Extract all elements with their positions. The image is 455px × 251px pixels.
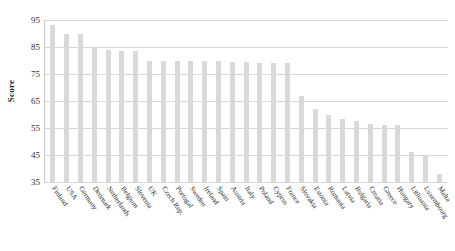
bar (64, 34, 69, 183)
x-label-slot: Slovakia (294, 183, 308, 251)
bar-slot (212, 20, 226, 182)
bar (216, 61, 221, 183)
bar (257, 63, 262, 182)
x-label-slot: Slovenia (129, 183, 143, 251)
bar-slot (87, 20, 101, 182)
x-label-slot: Ireland (198, 183, 212, 251)
bar (437, 174, 442, 182)
bar-slot (432, 20, 446, 182)
bar (106, 50, 111, 182)
bar-slot (253, 20, 267, 182)
bar-slot (198, 20, 212, 182)
y-tick-label: 75 (31, 69, 40, 79)
bar-slot (74, 20, 88, 182)
x-tick-label: Malta (436, 185, 452, 203)
bar-slot (308, 20, 322, 182)
x-label-slot: Cyprus (267, 183, 281, 251)
bar (188, 61, 193, 183)
x-label-slot: Bulgaria (350, 183, 364, 251)
x-label-slot: Belgium (115, 183, 129, 251)
x-label-slot: Romania (322, 183, 336, 251)
bar-slot (377, 20, 391, 182)
bar-slot (225, 20, 239, 182)
bar-slot (143, 20, 157, 182)
x-label-slot: Austria (225, 183, 239, 251)
x-label-slot: Poland (253, 183, 267, 251)
y-axis-title-label: Score (6, 80, 16, 102)
y-tick-label: 45 (31, 150, 40, 160)
bar (133, 51, 138, 182)
bar (285, 63, 290, 182)
x-label-slot: Croatia (363, 183, 377, 251)
bar-slot (46, 20, 60, 182)
bar (50, 25, 55, 182)
bar-slot (129, 20, 143, 182)
bar-slot (419, 20, 433, 182)
bar (395, 125, 400, 182)
x-label-slot: Czech Rep. (156, 183, 170, 251)
x-label-slot: Estonia (308, 183, 322, 251)
x-label-slot: Malta (432, 183, 446, 251)
x-label-slot: Hungary (391, 183, 405, 251)
x-label-slot: France (281, 183, 295, 251)
x-label-slot: Latvia (336, 183, 350, 251)
bar (299, 96, 304, 182)
bar-slot (60, 20, 74, 182)
x-label-slot: Finland (46, 183, 60, 251)
bar (230, 62, 235, 182)
bar-slot (294, 20, 308, 182)
bar (175, 61, 180, 183)
bar-slot (391, 20, 405, 182)
x-label-slot: Germany (74, 183, 88, 251)
y-tick-label: 95 (31, 15, 40, 25)
y-axis-tick-labels: 35455565758595 (18, 0, 42, 182)
x-label-slot: USA (60, 183, 74, 251)
bar (202, 61, 207, 183)
x-label-slot: Greece (377, 183, 391, 251)
x-label-slot: Lithuania (405, 183, 419, 251)
bar (244, 62, 249, 182)
bar (161, 61, 166, 183)
x-label-slot: UK (143, 183, 157, 251)
bar (271, 63, 276, 182)
bar (119, 51, 124, 182)
bar-slot (184, 20, 198, 182)
bar-slot (267, 20, 281, 182)
x-label-slot: Netherlands (101, 183, 115, 251)
x-label-slot: Denmark (87, 183, 101, 251)
bar-slot (170, 20, 184, 182)
bar-slot (239, 20, 253, 182)
bars-layer (44, 20, 448, 182)
bar-slot (350, 20, 364, 182)
bar-slot (281, 20, 295, 182)
y-tick-label: 55 (31, 123, 40, 133)
bar (423, 155, 428, 182)
bar-slot (101, 20, 115, 182)
bar-slot (322, 20, 336, 182)
bar (326, 115, 331, 183)
bar (368, 124, 373, 182)
bar-slot (336, 20, 350, 182)
plot-area (44, 20, 448, 182)
x-label-slot: Italy (239, 183, 253, 251)
x-label-slot: Luxembourg (419, 183, 433, 251)
x-label-slot: Spain (212, 183, 226, 251)
bar (354, 121, 359, 182)
bar-slot (156, 20, 170, 182)
bar (78, 34, 83, 183)
x-axis-tick-labels: FinlandUSAGermanyDenmarkNetherlandsBelgi… (44, 183, 448, 251)
bar (409, 152, 414, 182)
bar-slot (115, 20, 129, 182)
bar-slot (405, 20, 419, 182)
x-label-slot: Portugal (170, 183, 184, 251)
bar (147, 61, 152, 183)
bar (340, 119, 345, 182)
bar (382, 125, 387, 182)
y-tick-label: 85 (31, 42, 40, 52)
bar-slot (363, 20, 377, 182)
x-label-slot: Sweden (184, 183, 198, 251)
bar (92, 47, 97, 182)
y-tick-label: 35 (31, 177, 40, 187)
bar (313, 109, 318, 182)
bar-chart: Score 35455565758595 FinlandUSAGermanyDe… (0, 0, 455, 251)
